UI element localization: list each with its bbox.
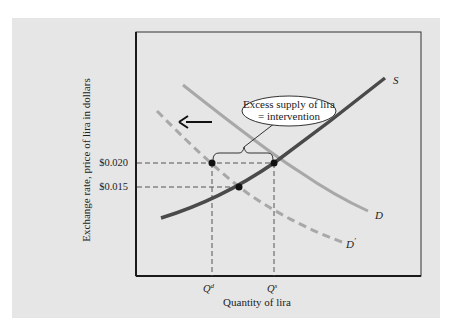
point-equilibrium-new xyxy=(236,184,243,191)
x-tick-qs: Qs xyxy=(267,282,278,294)
callout-line2: = intervention xyxy=(258,110,321,122)
x-axis-title: Quantity of lira xyxy=(223,296,291,308)
y-tick-high: $0.020 xyxy=(99,157,128,168)
y-axis-title: Exchange rate, price of lira in dollars xyxy=(80,78,92,241)
x-tick-qd: Qd xyxy=(203,282,215,294)
plot-frame xyxy=(136,32,421,276)
point-qs-peg xyxy=(271,160,278,167)
label-s: S xyxy=(393,74,399,86)
label-d: D xyxy=(374,209,383,221)
callout-line1: Excess supply of lira xyxy=(243,98,335,110)
chart-svg: Excess supply of lira = intervention $0.… xyxy=(0,0,450,334)
point-qd-peg xyxy=(209,160,216,167)
demand-curve-d-prime xyxy=(157,111,342,242)
y-tick-low: $0.015 xyxy=(99,181,128,192)
label-d-prime: D′ xyxy=(345,237,356,250)
